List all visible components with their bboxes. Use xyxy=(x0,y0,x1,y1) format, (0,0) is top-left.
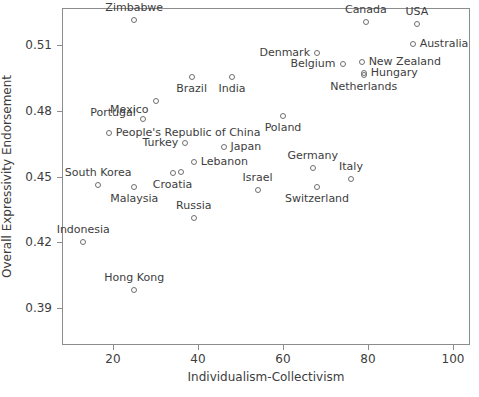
y-axis-title: Overall Expressivity Endorsement xyxy=(0,8,16,345)
data-point[interactable] xyxy=(314,184,320,190)
data-point-label: Poland xyxy=(265,122,302,134)
data-point[interactable] xyxy=(189,74,195,80)
data-point[interactable] xyxy=(310,165,316,171)
data-point[interactable] xyxy=(363,19,369,25)
data-point[interactable] xyxy=(410,41,416,47)
plot-area: ZimbabweCanadaUSAAustraliaDenmarkNew Zea… xyxy=(62,8,470,345)
data-point[interactable] xyxy=(170,170,176,176)
data-point-label: Russia xyxy=(176,200,211,212)
data-point-label: Turkey xyxy=(142,137,178,149)
data-point-label: People's Republic of China xyxy=(116,127,261,139)
y-tick-label: 0.48 xyxy=(25,104,52,118)
data-point[interactable] xyxy=(255,187,261,193)
data-point-label: Brazil xyxy=(176,83,207,95)
data-point-label: Lebanon xyxy=(201,156,248,168)
data-point-label: Germany xyxy=(287,150,338,162)
data-point-label: Zimbabwe xyxy=(105,2,163,14)
data-point-label: Indonesia xyxy=(57,224,110,236)
x-tick-label: 20 xyxy=(105,352,120,366)
data-point[interactable] xyxy=(140,116,146,122)
data-point[interactable] xyxy=(359,59,365,65)
data-point[interactable] xyxy=(153,98,159,104)
data-point-label: Japan xyxy=(231,141,262,153)
x-tick-mark xyxy=(283,345,284,350)
data-point[interactable] xyxy=(191,159,197,165)
y-tick-label: 0.51 xyxy=(25,38,52,52)
x-tick-mark xyxy=(113,345,114,350)
data-point[interactable] xyxy=(280,113,286,119)
data-point-label: Netherlands xyxy=(330,81,397,93)
data-point-label: Croatia xyxy=(153,179,193,191)
data-point[interactable] xyxy=(131,287,137,293)
data-point-label: South Korea xyxy=(65,167,132,179)
data-point[interactable] xyxy=(191,215,197,221)
x-tick-mark xyxy=(198,345,199,350)
data-point[interactable] xyxy=(182,140,188,146)
data-point-label: Canada xyxy=(345,4,387,16)
y-tick-mark xyxy=(57,177,62,178)
x-tick-label: 100 xyxy=(442,352,465,366)
data-point-label: Malaysia xyxy=(110,193,158,205)
x-tick-label: 60 xyxy=(275,352,290,366)
data-point-label: Switzerland xyxy=(285,193,349,205)
y-tick-mark xyxy=(57,111,62,112)
data-point[interactable] xyxy=(131,17,137,23)
data-point[interactable] xyxy=(414,21,420,27)
data-point-label: Israel xyxy=(242,172,272,184)
data-point[interactable] xyxy=(314,50,320,56)
data-point-label: Italy xyxy=(339,161,363,173)
x-tick-label: 40 xyxy=(190,352,205,366)
y-tick-label: 0.42 xyxy=(25,235,52,249)
x-tick-label: 80 xyxy=(360,352,375,366)
y-tick-label: 0.39 xyxy=(25,301,52,315)
data-point-label: Belgium xyxy=(290,58,335,70)
data-point[interactable] xyxy=(221,144,227,150)
data-point[interactable] xyxy=(361,72,367,78)
data-point-label: Portugal xyxy=(90,107,136,119)
data-point-label: India xyxy=(219,83,246,95)
data-point-label: Hong Kong xyxy=(104,272,164,284)
y-tick-mark xyxy=(57,242,62,243)
data-point[interactable] xyxy=(95,182,101,188)
data-point[interactable] xyxy=(178,169,184,175)
data-point[interactable] xyxy=(131,184,137,190)
data-point-label: Australia xyxy=(420,38,469,50)
y-tick-mark xyxy=(57,45,62,46)
data-point-label: USA xyxy=(405,6,428,18)
y-tick-label: 0.45 xyxy=(25,170,52,184)
data-point-label: Hungary xyxy=(371,67,418,79)
x-tick-mark xyxy=(453,345,454,350)
data-point[interactable] xyxy=(106,130,112,136)
y-tick-mark xyxy=(57,308,62,309)
x-axis-title: Individualism-Collectivism xyxy=(62,370,470,384)
data-point[interactable] xyxy=(348,176,354,182)
data-point[interactable] xyxy=(80,239,86,245)
data-point[interactable] xyxy=(340,61,346,67)
scatter-plot-figure: ZimbabweCanadaUSAAustraliaDenmarkNew Zea… xyxy=(0,0,479,397)
data-point[interactable] xyxy=(229,74,235,80)
x-tick-mark xyxy=(368,345,369,350)
